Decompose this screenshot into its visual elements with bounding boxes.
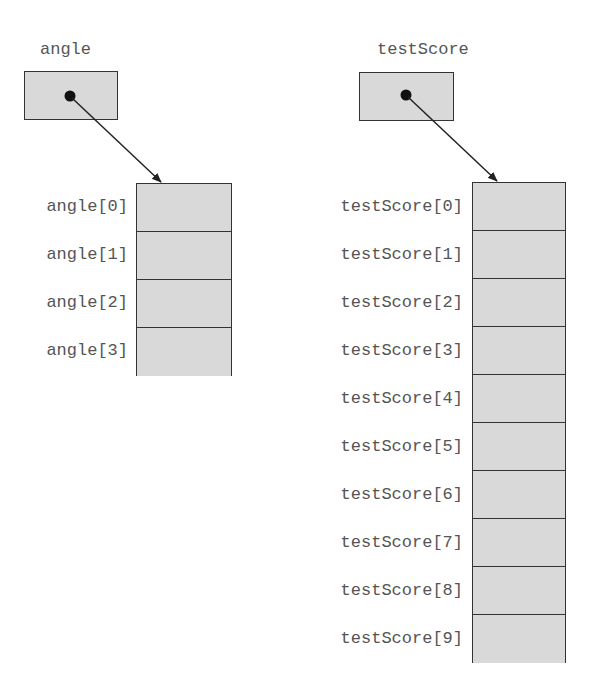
testscore-pointer-arrow bbox=[408, 97, 497, 181]
angle-pointer-arrow bbox=[72, 98, 161, 182]
pointer-arrows bbox=[0, 0, 592, 698]
